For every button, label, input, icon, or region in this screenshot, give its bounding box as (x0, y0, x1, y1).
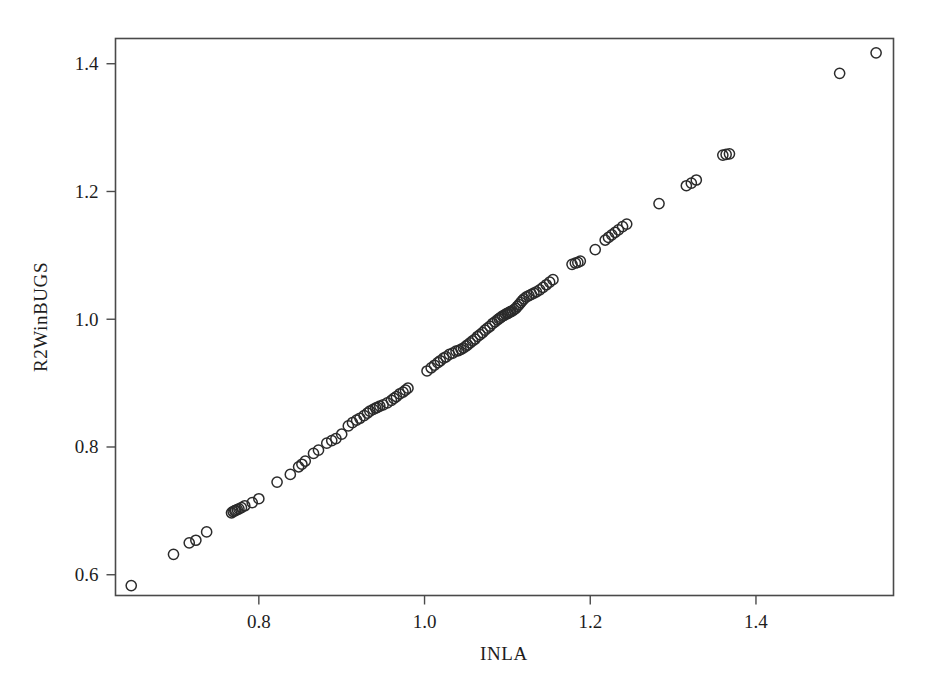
y-tick-label: 1.4 (75, 53, 99, 74)
plot-svg: 0.81.01.21.4 0.60.81.01.21.4 INLA R2WinB… (0, 0, 939, 688)
x-tick-label: 1.2 (578, 611, 602, 632)
x-tick-label: 1.4 (744, 611, 768, 632)
y-tick-label: 1.0 (75, 309, 99, 330)
x-tick-label: 1.0 (413, 611, 437, 632)
y-tick-label: 1.2 (75, 181, 99, 202)
figure-background (0, 0, 939, 688)
y-tick-label: 0.8 (75, 436, 99, 457)
scatter-plot-figure: 0.81.01.21.4 0.60.81.01.21.4 INLA R2WinB… (0, 0, 939, 688)
x-tick-label: 0.8 (247, 611, 271, 632)
y-tick-label: 0.6 (75, 564, 99, 585)
x-axis-label: INLA (480, 643, 528, 664)
y-axis-label: R2WinBUGS (30, 262, 51, 372)
